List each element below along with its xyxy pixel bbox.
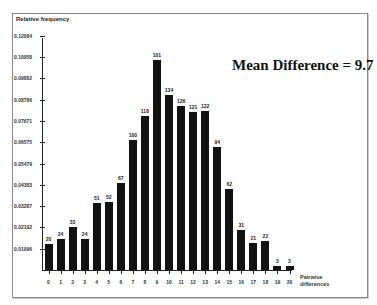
x-axis-title: Pairwisedifferences: [300, 274, 329, 288]
bar-value-label: 33: [65, 219, 81, 225]
bar: [249, 243, 257, 270]
y-tick-label: 0.08766: [14, 97, 38, 103]
bar-value-label: 122: [197, 103, 213, 109]
x-tick: [290, 270, 291, 274]
bar: [117, 183, 125, 270]
y-tick: [40, 164, 45, 165]
x-axis: [42, 270, 292, 271]
bar-value-label: 94: [209, 139, 225, 145]
x-tick: [121, 270, 122, 274]
x-tick: [277, 270, 278, 274]
y-tick: [40, 142, 45, 143]
bar: [189, 112, 197, 270]
y-tick-label: 0.03287: [14, 203, 38, 209]
x-tick: [205, 270, 206, 274]
bar-value-label: 100: [125, 132, 141, 138]
bar: [57, 239, 65, 270]
y-tick-label: 0.12064: [14, 33, 38, 39]
y-tick: [40, 100, 45, 101]
y-tick: [40, 227, 45, 228]
x-tick: [181, 270, 182, 274]
bar-value-label: 31: [233, 222, 249, 228]
y-tick: [40, 36, 45, 37]
bar: [213, 147, 221, 270]
bar: [93, 203, 101, 270]
bar: [45, 244, 53, 270]
bar: [141, 116, 149, 270]
x-tick: [145, 270, 146, 274]
x-tick: [97, 270, 98, 274]
bar-value-label: 52: [101, 194, 117, 200]
bar-value-label: 134: [161, 87, 177, 93]
bar: [261, 241, 269, 270]
y-tick-label: 0.07671: [14, 118, 38, 124]
x-tick: [133, 270, 134, 274]
bar-value-label: 22: [257, 233, 273, 239]
y-tick-label: 0.10958: [14, 54, 38, 60]
bar: [81, 239, 89, 270]
bar-value-label: 126: [173, 98, 189, 104]
x-tick-label: 20: [283, 279, 297, 285]
y-tick-label: 0.04383: [14, 182, 38, 188]
y-tick-label: 0.09862: [14, 75, 38, 81]
bar-value-label: 24: [77, 231, 93, 237]
bar-value-label: 101: [149, 52, 165, 58]
x-tick: [169, 270, 170, 274]
x-tick: [253, 270, 254, 274]
y-tick: [40, 185, 45, 186]
mean-difference-annotation: Mean Difference = 9.7: [232, 57, 374, 74]
bar-value-label: 3: [282, 258, 298, 264]
bar: [69, 227, 77, 270]
y-axis-title: Relative frequency: [16, 16, 69, 22]
x-tick: [157, 270, 158, 274]
bar-value-label: 62: [221, 181, 237, 187]
x-tick: [61, 270, 62, 274]
y-tick-label: 0.01096: [14, 246, 38, 252]
bar: [201, 111, 209, 270]
y-tick-label: 0.05479: [14, 161, 38, 167]
bar-value-label: 118: [137, 108, 153, 114]
bar: [153, 60, 161, 270]
y-tick-label: 0.02192: [14, 224, 38, 230]
x-tick: [85, 270, 86, 274]
bar: [129, 140, 137, 270]
bar: [105, 202, 113, 270]
x-tick: [49, 270, 50, 274]
bar-value-label: 20: [41, 236, 57, 242]
y-tick-label: 0.06575: [14, 139, 38, 145]
x-tick: [229, 270, 230, 274]
x-tick: [217, 270, 218, 274]
bar: [165, 95, 173, 270]
x-tick: [241, 270, 242, 274]
x-axis-title-text: Pairwisedifferences: [300, 274, 329, 287]
bar: [225, 189, 233, 270]
y-tick: [40, 78, 45, 79]
x-tick: [73, 270, 74, 274]
bar: [237, 230, 245, 270]
x-tick: [193, 270, 194, 274]
x-tick: [109, 270, 110, 274]
bar: [177, 106, 185, 270]
y-tick: [40, 206, 45, 207]
y-tick: [40, 57, 45, 58]
bar-value-label: 67: [113, 175, 129, 181]
bar-value-label: 24: [53, 231, 69, 237]
y-tick: [40, 121, 45, 122]
x-tick: [265, 270, 266, 274]
